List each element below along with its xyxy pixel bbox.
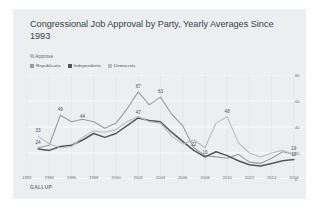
data-point-label: 47: [136, 109, 141, 114]
y-axis-tick-label: 60: [295, 99, 300, 104]
x-axis-tick-label: 2006: [178, 175, 187, 180]
x-axis-tick-label: 2000: [111, 175, 120, 180]
x-axis-tick-label: 2014: [267, 175, 276, 180]
legend-item-independents[interactable]: Independents: [68, 63, 101, 68]
data-point-label: 33: [36, 128, 41, 133]
data-point-label: 67: [136, 83, 141, 88]
data-point-label: 44: [80, 113, 85, 118]
x-axis-tick-label: 1996: [67, 175, 76, 180]
chart-card: Congressional Job Approval by Party, Yea…: [13, 9, 306, 199]
source-attribution: GALLUP: [30, 185, 52, 190]
x-axis-tick-label: 1994: [45, 175, 54, 180]
x-axis: 1992199419961998200020022004200620082010…: [27, 175, 305, 185]
page-title: Congressional Job Approval by Party, Yea…: [30, 19, 288, 42]
plot-svg: [27, 75, 305, 179]
x-axis-tick-label: 2008: [200, 175, 209, 180]
x-axis-tick-label: 2010: [222, 175, 231, 180]
data-point-label: 48: [225, 108, 230, 113]
data-point-label: 24: [36, 139, 41, 144]
data-point-label: 63: [158, 89, 163, 94]
x-axis-tick-label: 1992: [22, 175, 31, 180]
legend-swatch-icon: [108, 64, 112, 68]
y-axis-tick-label: 0: [295, 177, 297, 182]
legend-label: Independents: [74, 63, 101, 68]
plot-area: 332449444767632216481915: [27, 75, 305, 179]
data-point-label: 49: [58, 107, 63, 112]
legend-label: Republicans: [36, 63, 61, 68]
x-axis-tick-label: 2002: [134, 175, 143, 180]
y-axis: 020406080: [289, 75, 315, 179]
data-point-label: 16: [202, 150, 207, 155]
y-axis-tick-label: 80: [295, 73, 300, 78]
data-point-label: 22: [191, 142, 196, 147]
y-axis-tick-label: 40: [295, 125, 300, 130]
x-axis-tick-label: 2004: [156, 175, 165, 180]
y-axis-note: % Approve: [30, 54, 53, 59]
legend-label: Democrats: [114, 63, 136, 68]
chart-legend: RepublicansIndependentsDemocrats: [30, 63, 136, 68]
legend-swatch-icon: [30, 64, 34, 68]
legend-item-republicans[interactable]: Republicans: [30, 63, 61, 68]
legend-item-democrats[interactable]: Democrats: [108, 63, 136, 68]
y-axis-tick-label: 20: [295, 151, 300, 156]
x-axis-tick-label: 1998: [89, 175, 98, 180]
series-line-democrats: [38, 117, 294, 157]
x-axis-tick-label: 2012: [245, 175, 254, 180]
legend-swatch-icon: [68, 64, 72, 68]
